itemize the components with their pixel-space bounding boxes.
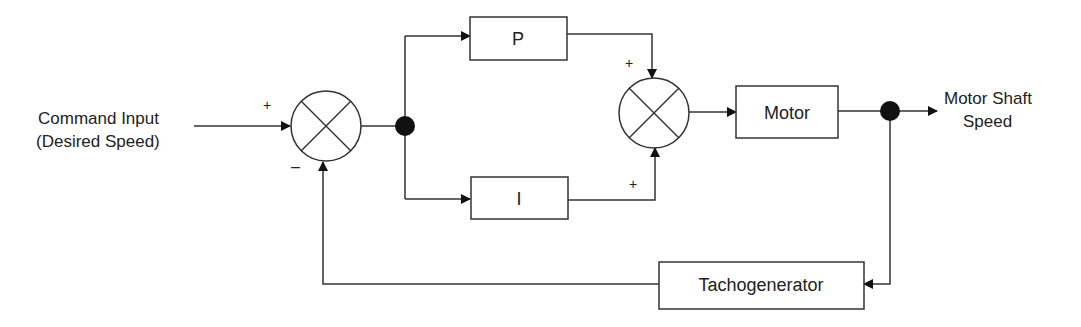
input-label-line1: Command Input: [38, 109, 159, 128]
sum1-minus-sign: –: [291, 158, 300, 175]
output-label-line1: Motor Shaft: [944, 89, 1032, 108]
input-label-line2: (Desired Speed): [36, 132, 160, 151]
i-block-label: I: [516, 189, 521, 209]
labels-layer: Command Input (Desired Speed) Motor Shaf…: [0, 0, 1081, 327]
tacho-block-label: Tachogenerator: [698, 275, 823, 295]
output-label-line2: Speed: [963, 112, 1012, 131]
p-block-label: P: [512, 29, 524, 49]
sum2-top-plus-sign: +: [625, 55, 633, 71]
sum1-plus-sign: +: [263, 97, 271, 113]
motor-block-label: Motor: [764, 103, 810, 123]
sum2-bottom-plus-sign: +: [629, 176, 637, 192]
